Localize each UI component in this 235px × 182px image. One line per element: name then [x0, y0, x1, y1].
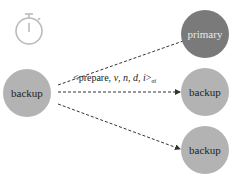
sender-node: backup — [3, 69, 51, 117]
diagram-canvas: backup primary backup backup <prepare, v… — [0, 0, 235, 182]
receiver-node-primary: primary — [181, 10, 229, 58]
sender-label: backup — [11, 87, 43, 99]
receiver-label: backup — [189, 86, 221, 98]
receiver-label: primary — [188, 28, 223, 40]
message-arrow-backup-2 — [58, 104, 180, 149]
receiver-node-backup: backup — [181, 126, 229, 174]
receiver-label: backup — [189, 144, 221, 156]
message-label: <prepare, v, n, d, i>σi — [73, 72, 156, 84]
receiver-node-backup: backup — [181, 68, 229, 116]
stopwatch-icon — [16, 14, 42, 44]
